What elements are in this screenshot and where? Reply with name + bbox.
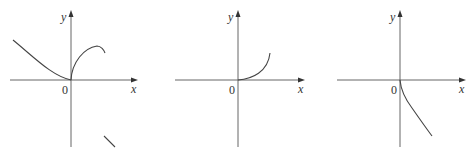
y-axis-label: y — [227, 10, 234, 24]
graph-1: y x 0 — [10, 10, 138, 147]
x-axis-label: x — [458, 82, 465, 96]
origin-label: 0 — [62, 83, 68, 97]
right-branch-curve — [71, 46, 105, 80]
y-axis-arrow-icon — [69, 10, 74, 17]
x-axis-label: x — [130, 82, 137, 96]
falling-curve — [400, 80, 432, 136]
origin-label: 0 — [229, 83, 235, 97]
lower-segment-curve — [104, 136, 115, 147]
figure-canvas: y x 0 y x 0 y x 0 — [0, 0, 475, 159]
origin-label: 0 — [391, 83, 397, 97]
x-axis-label: x — [297, 82, 304, 96]
graph-2: y x 0 — [175, 10, 305, 147]
left-branch-curve — [13, 40, 71, 80]
y-axis-arrow-icon — [236, 10, 241, 17]
graph-3: y x 0 — [337, 10, 466, 147]
y-axis-label: y — [60, 10, 67, 24]
y-axis-arrow-icon — [398, 10, 403, 17]
y-axis-label: y — [389, 10, 396, 24]
rising-curve — [238, 53, 270, 80]
